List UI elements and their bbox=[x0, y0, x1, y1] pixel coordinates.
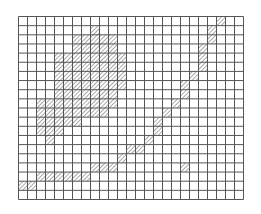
hatched-cell bbox=[208, 26, 217, 35]
grid-canvas bbox=[18, 16, 244, 200]
hatched-cell bbox=[91, 71, 100, 80]
hatched-cell bbox=[91, 35, 100, 44]
hatched-cell bbox=[64, 172, 73, 181]
hatched-cell bbox=[136, 145, 145, 154]
hatched-cell bbox=[46, 117, 55, 126]
hatched-cell bbox=[100, 71, 109, 80]
hatched-cell bbox=[37, 126, 46, 135]
hatched-cell bbox=[82, 62, 91, 71]
hatched-cell bbox=[82, 81, 91, 90]
hatched-cell bbox=[73, 172, 82, 181]
hatched-cell bbox=[82, 71, 91, 80]
hatched-cell bbox=[199, 44, 208, 53]
hatched-cell bbox=[199, 53, 208, 62]
hatched-cell bbox=[100, 53, 109, 62]
hatched-cell bbox=[181, 90, 190, 99]
hatched-cell bbox=[91, 99, 100, 108]
hatched-cell bbox=[64, 71, 73, 80]
hatched-cell bbox=[55, 126, 64, 135]
hatched-cell bbox=[91, 26, 100, 35]
hatched-cell bbox=[37, 108, 46, 117]
hatched-cell bbox=[163, 108, 172, 117]
hatched-cell bbox=[73, 108, 82, 117]
hatched-cell bbox=[100, 35, 109, 44]
hatched-cell bbox=[64, 108, 73, 117]
hatched-cell bbox=[91, 163, 100, 172]
hatched-cell bbox=[100, 99, 109, 108]
hatched-cell bbox=[100, 90, 109, 99]
hatched-cell bbox=[82, 99, 91, 108]
hatched-cell bbox=[118, 71, 127, 80]
hatched-cell bbox=[55, 81, 64, 90]
hatched-cell bbox=[91, 108, 100, 117]
hatched-cell bbox=[46, 172, 55, 181]
hatched-cell bbox=[91, 81, 100, 90]
grid-lines bbox=[19, 17, 244, 200]
hatched-cell bbox=[100, 81, 109, 90]
hatched-cell bbox=[64, 90, 73, 99]
hatched-cell bbox=[37, 99, 46, 108]
hatched-cell bbox=[109, 99, 118, 108]
hatched-cell bbox=[118, 62, 127, 71]
hatched-cell bbox=[190, 71, 199, 80]
hatched-cell bbox=[73, 71, 82, 80]
hatched-cell bbox=[73, 35, 82, 44]
hatched-grid-figure bbox=[18, 16, 244, 200]
hatched-cell bbox=[118, 154, 127, 163]
hatched-cell bbox=[82, 90, 91, 99]
hatched-cell bbox=[55, 172, 64, 181]
hatched-cell bbox=[46, 108, 55, 117]
hatched-cell bbox=[118, 81, 127, 90]
hatched-cell bbox=[64, 62, 73, 71]
hatched-cell bbox=[109, 35, 118, 44]
hatched-cell bbox=[28, 181, 37, 190]
hatched-cell bbox=[55, 99, 64, 108]
hatched-cell bbox=[100, 62, 109, 71]
hatched-cell bbox=[217, 17, 226, 26]
hatched-cell bbox=[64, 53, 73, 62]
hatched-cell bbox=[73, 90, 82, 99]
hatched-cell bbox=[109, 53, 118, 62]
hatched-cell bbox=[91, 62, 100, 71]
hatched-cell bbox=[55, 71, 64, 80]
hatched-cell bbox=[19, 181, 28, 190]
hatched-cell bbox=[82, 108, 91, 117]
hatched-cell bbox=[109, 163, 118, 172]
hatched-cell bbox=[181, 163, 190, 172]
hatched-cell bbox=[64, 81, 73, 90]
hatched-cell bbox=[109, 81, 118, 90]
hatched-cell bbox=[37, 117, 46, 126]
hatched-cell bbox=[127, 145, 136, 154]
hatched-cell bbox=[109, 90, 118, 99]
hatched-cell bbox=[82, 35, 91, 44]
hatched-cell bbox=[172, 99, 181, 108]
hatched-cell bbox=[154, 126, 163, 135]
hatched-cell bbox=[82, 44, 91, 53]
hatched-cell bbox=[73, 53, 82, 62]
hatched-cell bbox=[82, 53, 91, 62]
hatched-cell bbox=[73, 99, 82, 108]
hatched-cell bbox=[91, 53, 100, 62]
hatched-cell bbox=[82, 172, 91, 181]
hatched-cell bbox=[145, 135, 154, 144]
hatched-cell bbox=[181, 81, 190, 90]
hatched-cell bbox=[55, 62, 64, 71]
hatched-cell bbox=[73, 44, 82, 53]
hatched-cell bbox=[73, 62, 82, 71]
hatched-cell bbox=[55, 53, 64, 62]
hatched-cell bbox=[37, 172, 46, 181]
hatched-cell bbox=[46, 126, 55, 135]
hatched-cell bbox=[91, 90, 100, 99]
hatched-cell bbox=[100, 108, 109, 117]
hatched-cell bbox=[208, 35, 217, 44]
hatched-cell bbox=[109, 62, 118, 71]
hatched-cell bbox=[73, 81, 82, 90]
hatched-cell bbox=[55, 108, 64, 117]
hatched-cell bbox=[199, 62, 208, 71]
hatched-cells bbox=[19, 17, 226, 191]
hatched-cell bbox=[91, 44, 100, 53]
hatched-cell bbox=[118, 53, 127, 62]
hatched-cell bbox=[46, 135, 55, 144]
hatched-cell bbox=[55, 90, 64, 99]
hatched-cell bbox=[154, 117, 163, 126]
